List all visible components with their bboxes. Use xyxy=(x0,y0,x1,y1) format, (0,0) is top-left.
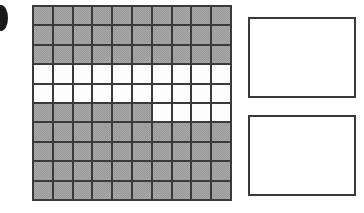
grid-cell-r6-c9[interactable] xyxy=(192,104,210,121)
grid-cell-r10-c2[interactable] xyxy=(54,182,72,199)
grid-cell-r9-c8[interactable] xyxy=(173,162,191,179)
answer-box-bottom[interactable] xyxy=(248,115,356,196)
grid-cell-r2-c9[interactable] xyxy=(192,26,210,43)
grid-cell-r2-c7[interactable] xyxy=(153,26,171,43)
grid-cell-r10-c1[interactable] xyxy=(34,182,52,199)
grid-cell-r7-c10[interactable] xyxy=(212,123,230,140)
grid-cell-r9-c9[interactable] xyxy=(192,162,210,179)
grid-cell-r9-c1[interactable] xyxy=(34,162,52,179)
grid-cell-r7-c7[interactable] xyxy=(153,123,171,140)
grid-cell-r9-c2[interactable] xyxy=(54,162,72,179)
grid-cell-r4-c5[interactable] xyxy=(113,65,131,82)
grid-cell-r10-c4[interactable] xyxy=(93,182,111,199)
grid-cell-r10-c10[interactable] xyxy=(212,182,230,199)
grid-cell-r6-c2[interactable] xyxy=(54,104,72,121)
grid-cell-r2-c1[interactable] xyxy=(34,26,52,43)
grid-cell-r7-c4[interactable] xyxy=(93,123,111,140)
grid-cell-r2-c8[interactable] xyxy=(173,26,191,43)
grid-cell-r4-c10[interactable] xyxy=(212,65,230,82)
grid-cell-r8-c1[interactable] xyxy=(34,143,52,160)
grid-cell-r8-c5[interactable] xyxy=(113,143,131,160)
grid-cell-r7-c9[interactable] xyxy=(192,123,210,140)
grid-cell-r10-c8[interactable] xyxy=(173,182,191,199)
grid-cell-r9-c7[interactable] xyxy=(153,162,171,179)
grid-cell-r3-c3[interactable] xyxy=(74,46,92,63)
grid-cell-r4-c9[interactable] xyxy=(192,65,210,82)
grid-cell-r6-c10[interactable] xyxy=(212,104,230,121)
grid-cell-r3-c5[interactable] xyxy=(113,46,131,63)
grid-cell-r7-c2[interactable] xyxy=(54,123,72,140)
grid-cell-r10-c9[interactable] xyxy=(192,182,210,199)
answer-box-top[interactable] xyxy=(248,17,356,98)
grid-cell-r7-c8[interactable] xyxy=(173,123,191,140)
grid-cell-r1-c4[interactable] xyxy=(93,7,111,24)
grid-cell-r4-c3[interactable] xyxy=(74,65,92,82)
grid-cell-r4-c7[interactable] xyxy=(153,65,171,82)
grid-cell-r3-c9[interactable] xyxy=(192,46,210,63)
grid-cell-r10-c5[interactable] xyxy=(113,182,131,199)
grid-cell-r6-c6[interactable] xyxy=(133,104,151,121)
grid-cell-r2-c2[interactable] xyxy=(54,26,72,43)
grid-cell-r2-c3[interactable] xyxy=(74,26,92,43)
grid-cell-r5-c7[interactable] xyxy=(153,85,171,102)
grid-cell-r7-c6[interactable] xyxy=(133,123,151,140)
grid-cell-r9-c3[interactable] xyxy=(74,162,92,179)
grid-cell-r9-c6[interactable] xyxy=(133,162,151,179)
grid-cell-r5-c5[interactable] xyxy=(113,85,131,102)
grid-cell-r4-c2[interactable] xyxy=(54,65,72,82)
grid-cell-r9-c4[interactable] xyxy=(93,162,111,179)
grid-cell-r8-c3[interactable] xyxy=(74,143,92,160)
grid-cell-r1-c7[interactable] xyxy=(153,7,171,24)
grid-cell-r10-c6[interactable] xyxy=(133,182,151,199)
grid-cell-r4-c6[interactable] xyxy=(133,65,151,82)
grid-cell-r8-c8[interactable] xyxy=(173,143,191,160)
shaded-grid[interactable] xyxy=(32,5,232,201)
grid-cell-r1-c2[interactable] xyxy=(54,7,72,24)
grid-cell-r9-c10[interactable] xyxy=(212,162,230,179)
grid-cell-r3-c6[interactable] xyxy=(133,46,151,63)
grid-cell-r7-c3[interactable] xyxy=(74,123,92,140)
grid-cell-r7-c5[interactable] xyxy=(113,123,131,140)
grid-cell-r1-c9[interactable] xyxy=(192,7,210,24)
grid-cell-r4-c8[interactable] xyxy=(173,65,191,82)
grid-cell-r1-c5[interactable] xyxy=(113,7,131,24)
grid-cell-r6-c8[interactable] xyxy=(173,104,191,121)
grid-cell-r3-c2[interactable] xyxy=(54,46,72,63)
grid-cell-r8-c4[interactable] xyxy=(93,143,111,160)
grid-cell-r1-c6[interactable] xyxy=(133,7,151,24)
grid-cell-r3-c10[interactable] xyxy=(212,46,230,63)
grid-cell-r6-c4[interactable] xyxy=(93,104,111,121)
grid-cell-r1-c1[interactable] xyxy=(34,7,52,24)
grid-cell-r5-c2[interactable] xyxy=(54,85,72,102)
grid-cell-r3-c8[interactable] xyxy=(173,46,191,63)
grid-cell-r8-c2[interactable] xyxy=(54,143,72,160)
grid-cell-r5-c6[interactable] xyxy=(133,85,151,102)
grid-cell-r4-c1[interactable] xyxy=(34,65,52,82)
grid-cell-r3-c1[interactable] xyxy=(34,46,52,63)
grid-cell-r5-c1[interactable] xyxy=(34,85,52,102)
grid-cell-r3-c4[interactable] xyxy=(93,46,111,63)
grid-cell-r4-c4[interactable] xyxy=(93,65,111,82)
grid-cell-r8-c7[interactable] xyxy=(153,143,171,160)
grid-cell-r2-c6[interactable] xyxy=(133,26,151,43)
grid-cell-r1-c3[interactable] xyxy=(74,7,92,24)
grid-cell-r6-c7[interactable] xyxy=(153,104,171,121)
grid-cell-r10-c3[interactable] xyxy=(74,182,92,199)
grid-cell-r5-c4[interactable] xyxy=(93,85,111,102)
grid-cell-r9-c5[interactable] xyxy=(113,162,131,179)
grid-cell-r5-c10[interactable] xyxy=(212,85,230,102)
grid-cell-r6-c5[interactable] xyxy=(113,104,131,121)
grid-cell-r1-c10[interactable] xyxy=(212,7,230,24)
grid-cell-r5-c8[interactable] xyxy=(173,85,191,102)
grid-cell-r6-c3[interactable] xyxy=(74,104,92,121)
grid-cell-r2-c10[interactable] xyxy=(212,26,230,43)
grid-cell-r6-c1[interactable] xyxy=(34,104,52,121)
grid-cell-r8-c9[interactable] xyxy=(192,143,210,160)
grid-cell-r1-c8[interactable] xyxy=(173,7,191,24)
grid-cell-r5-c9[interactable] xyxy=(192,85,210,102)
grid-cell-r3-c7[interactable] xyxy=(153,46,171,63)
grid-cell-r2-c5[interactable] xyxy=(113,26,131,43)
grid-cell-r10-c7[interactable] xyxy=(153,182,171,199)
grid-cell-r7-c1[interactable] xyxy=(34,123,52,140)
grid-cell-r2-c4[interactable] xyxy=(93,26,111,43)
